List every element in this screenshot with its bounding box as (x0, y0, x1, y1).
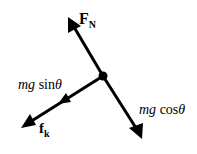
normal-force-label: FN (79, 11, 96, 27)
mg-sin-label: mg sinθ (18, 78, 62, 92)
mg-cos-label: mg cosθ (139, 103, 185, 117)
body-point (99, 72, 108, 81)
mg-cos-arrow (103, 76, 143, 139)
friction-label: fk (39, 121, 50, 136)
